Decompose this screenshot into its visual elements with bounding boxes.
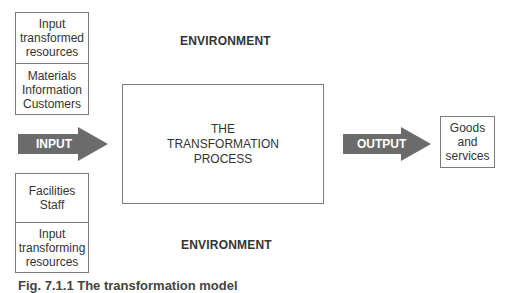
transforming-resources-items: Facilities Staff (16, 174, 88, 222)
figure-caption: Fig. 7.1.1 The transformation model (18, 278, 238, 293)
transformed-resources-label: Input transformed resources (16, 13, 88, 63)
transformed-resources-box: Input transformed resources Materials In… (15, 12, 89, 115)
output-label: OUTPUT (357, 137, 406, 151)
transforming-resources-label: Input transforming resources (16, 223, 88, 273)
transformation-process-label: THE TRANSFORMATION PROCESS (123, 85, 323, 203)
transforming-resources-box: Facilities Staff Input transforming reso… (15, 173, 89, 273)
transformed-resources-items: Materials Information Customers (16, 64, 88, 115)
goods-and-services-label: Goods and services (441, 117, 494, 167)
goods-and-services-box: Goods and services (440, 116, 495, 168)
environment-top-label: ENVIRONMENT (180, 34, 271, 48)
transformation-process-box: THE TRANSFORMATION PROCESS (122, 84, 324, 204)
input-label: INPUT (36, 137, 72, 151)
environment-bottom-label: ENVIRONMENT (181, 238, 272, 252)
